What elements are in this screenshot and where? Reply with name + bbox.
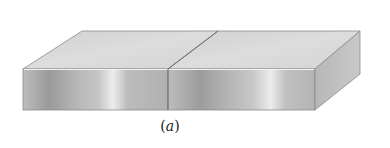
left-block-front-face <box>23 69 168 110</box>
figure-caption: (a) <box>0 118 340 134</box>
caption-close-paren: ) <box>174 118 179 134</box>
right-block-front-face <box>168 69 315 110</box>
caption-letter: a <box>166 118 174 134</box>
